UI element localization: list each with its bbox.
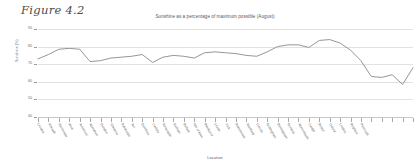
y-tick-mark	[34, 82, 37, 83]
x-tick-label: Dumfries	[141, 123, 150, 136]
y-tick-label: 70	[28, 62, 32, 66]
x-tick-mark	[382, 118, 383, 122]
x-tick-mark	[215, 118, 216, 122]
x-tick-mark	[59, 118, 60, 122]
x-tick-label: Lerwick	[36, 123, 44, 134]
y-tick-label: 50	[28, 98, 32, 102]
x-tick-label: Bristol	[318, 123, 325, 133]
x-tick-label: Cardiff	[307, 123, 315, 133]
x-tick-label: Blackpool	[203, 123, 213, 137]
x-tick-mark	[309, 118, 310, 122]
plot-area: 908070605040	[38, 29, 413, 117]
x-tick-mark	[80, 118, 81, 122]
y-tick-mark	[34, 99, 37, 100]
x-tick-mark	[413, 118, 414, 122]
x-tick-mark	[173, 118, 174, 122]
x-tick-mark	[257, 118, 258, 122]
x-tick-label: Norwich	[286, 123, 295, 135]
x-tick-mark	[403, 118, 404, 122]
x-tick-mark	[90, 118, 91, 122]
x-tick-mark	[351, 118, 352, 122]
x-tick-mark	[246, 118, 247, 122]
y-tick-label: 60	[28, 80, 32, 84]
x-tick-label: Stornoway	[57, 123, 68, 138]
x-tick-label: London	[338, 123, 346, 134]
x-tick-label: Sheffield	[245, 123, 254, 136]
y-axis-title: Sunshine (%)	[15, 39, 19, 62]
sunshine-series-line	[38, 29, 413, 117]
x-tick-mark	[278, 118, 279, 122]
x-tick-label: Belfast	[182, 123, 190, 133]
y-tick-mark	[34, 117, 37, 118]
x-tick-mark	[205, 118, 206, 122]
x-tick-mark	[163, 118, 164, 122]
x-tick-label: Oxford	[328, 123, 336, 133]
x-tick-label: Newcastle	[161, 123, 171, 138]
x-tick-label: Carlisle	[151, 123, 159, 134]
x-tick-label: Manchester	[234, 123, 245, 140]
x-tick-label: Glasgow	[109, 123, 118, 136]
x-tick-mark	[298, 118, 299, 122]
x-tick-mark	[142, 118, 143, 122]
y-tick-mark	[34, 47, 37, 48]
x-tick-mark	[101, 118, 102, 122]
x-tick-mark	[38, 118, 39, 122]
x-tick-mark	[371, 118, 372, 122]
x-tick-label: Leeds	[213, 123, 220, 132]
x-tick-label: Ayr	[130, 123, 135, 129]
x-tick-mark	[392, 118, 393, 122]
x-axis-labels: LerwickKirkwallStornowayWickAviemoreAber…	[38, 123, 413, 157]
x-tick-mark	[121, 118, 122, 122]
x-tick-mark	[184, 118, 185, 122]
x-tick-label: Edinburgh	[120, 123, 130, 138]
y-tick-label: 80	[28, 45, 32, 49]
x-tick-label: York	[224, 123, 230, 130]
x-tick-mark	[132, 118, 133, 122]
x-tick-label: Wick	[68, 123, 74, 131]
x-tick-label: Lincoln	[255, 123, 263, 134]
chart-area: Sunshine as a percentage of maximum poss…	[14, 12, 416, 162]
x-tick-label: Aviemore	[78, 123, 88, 137]
y-tick-label: 40	[28, 115, 32, 119]
x-tick-label: Dundee	[99, 123, 108, 135]
y-tick-mark	[34, 64, 37, 65]
x-tick-label: Durham	[172, 123, 181, 135]
x-tick-label: Aberdeen	[88, 123, 98, 137]
x-tick-mark	[111, 118, 112, 122]
y-tick-label: 90	[28, 27, 32, 31]
x-tick-mark	[340, 118, 341, 122]
x-tick-mark	[330, 118, 331, 122]
x-tick-label: Kirkwall	[47, 123, 56, 134]
x-tick-label: Plymouth	[359, 123, 369, 137]
x-tick-mark	[236, 118, 237, 122]
y-tick-mark	[34, 29, 37, 30]
x-tick-mark	[153, 118, 154, 122]
chart-title: Sunshine as a percentage of maximum poss…	[14, 14, 416, 19]
x-tick-label: Nottingham	[266, 123, 277, 139]
x-tick-mark	[226, 118, 227, 122]
x-tick-mark	[288, 118, 289, 122]
x-tick-label: Isle of Man	[193, 123, 204, 139]
x-tick-label: Brighton	[349, 123, 358, 135]
x-axis-title: Location	[14, 155, 416, 160]
figure-container: Figure 4.2 Sunshine as a percentage of m…	[0, 0, 419, 164]
x-tick-mark	[48, 118, 49, 122]
x-tick-mark	[361, 118, 362, 122]
x-tick-mark	[267, 118, 268, 122]
